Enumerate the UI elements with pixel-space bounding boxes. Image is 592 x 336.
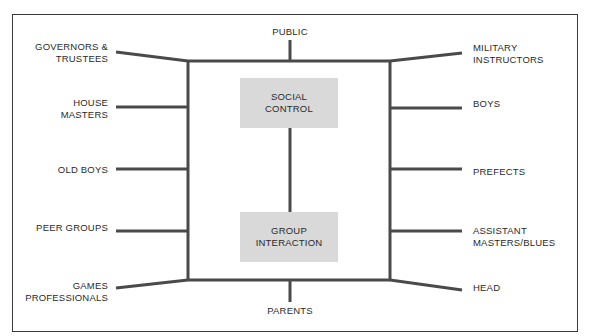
social-control-box: SOCIAL CONTROL — [240, 78, 338, 128]
label-assistant-masters-blues: ASSISTANT MASTERS/BLUES — [473, 225, 555, 248]
label-games-professionals: GAMES PROFESSIONALS — [8, 280, 108, 303]
label-line: MASTERS/BLUES — [473, 237, 555, 249]
label-line: GOVERNORS & — [8, 41, 108, 53]
label-line: PEER GROUPS — [8, 222, 108, 234]
label-line: OLD BOYS — [8, 164, 108, 176]
label-line: TRUSTEES — [8, 53, 108, 65]
label-line: PREFECTS — [473, 166, 525, 178]
label-line: MILITARY — [473, 42, 544, 54]
branch-governors — [116, 52, 188, 61]
label-line: INSTRUCTORS — [473, 54, 544, 66]
label-house-masters: HOUSE MASTERS — [8, 97, 108, 120]
group-interaction-line1: GROUP — [256, 225, 323, 237]
group-interaction-line2: INTERACTION — [256, 237, 323, 249]
branch-military — [390, 53, 462, 61]
label-head: HEAD — [473, 282, 500, 294]
label-old-boys: OLD BOYS — [8, 164, 108, 176]
label-parents-text: PARENTS — [250, 305, 330, 317]
label-line: ASSISTANT — [473, 225, 555, 237]
label-public: PUBLIC — [250, 26, 330, 38]
label-line: MASTERS — [8, 109, 108, 121]
label-boys: BOYS — [473, 98, 500, 110]
branch-head — [390, 280, 462, 290]
label-governors-trustees: GOVERNORS & TRUSTEES — [8, 41, 108, 64]
label-peer-groups: PEER GROUPS — [8, 222, 108, 234]
social-control-line2: CONTROL — [265, 103, 313, 115]
label-line: HEAD — [473, 282, 500, 294]
branch-games-professionals — [116, 280, 188, 288]
label-line: GAMES — [8, 280, 108, 292]
label-line: PROFESSIONALS — [8, 292, 108, 304]
group-interaction-box: GROUP INTERACTION — [240, 212, 338, 262]
label-prefects: PREFECTS — [473, 166, 525, 178]
social-control-line1: SOCIAL — [265, 91, 313, 103]
label-public-text: PUBLIC — [250, 26, 330, 38]
label-line: BOYS — [473, 98, 500, 110]
label-parents: PARENTS — [250, 305, 330, 317]
label-line: HOUSE — [8, 97, 108, 109]
label-military-instructors: MILITARY INSTRUCTORS — [473, 42, 544, 65]
